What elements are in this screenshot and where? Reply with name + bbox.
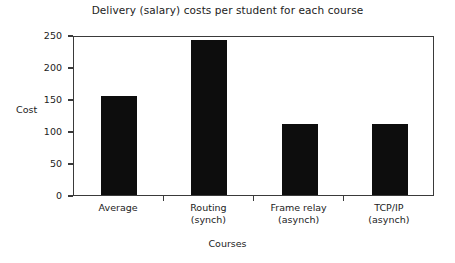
- x-axis-title: Courses: [0, 238, 455, 249]
- x-axis-category-label-line1: Routing: [190, 202, 226, 213]
- x-axis: AverageRouting(synch)Frame relay(asynch)…: [0, 0, 455, 263]
- x-axis-tick-mark: [253, 196, 254, 201]
- x-axis-category-label-line1: Average: [99, 202, 138, 213]
- x-axis-category-label-line1: Frame relay: [271, 202, 327, 213]
- x-axis-category-label-line1: TCP/IP: [374, 202, 403, 213]
- x-axis-category-label-line2: (asynch): [334, 214, 444, 226]
- x-axis-tick-mark: [163, 196, 164, 201]
- bar-chart-figure: Delivery (salary) costs per student for …: [0, 0, 455, 263]
- x-axis-tick-mark: [343, 196, 344, 201]
- x-axis-category-label: TCP/IP(asynch): [334, 202, 444, 226]
